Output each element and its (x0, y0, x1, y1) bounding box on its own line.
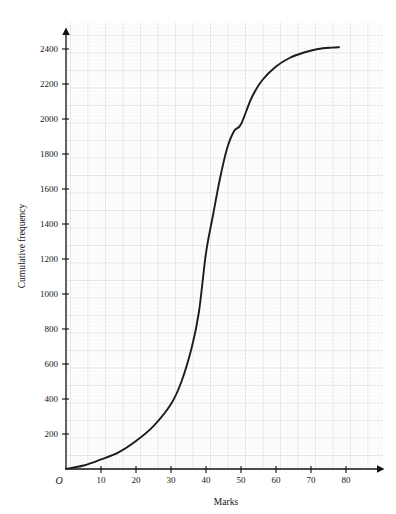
x-axis-title: Marks (214, 497, 239, 507)
y-tick-label: 800 (45, 324, 59, 334)
y-tick-label: 2400 (40, 44, 59, 54)
grid (66, 23, 383, 470)
cumulative-frequency-chart: 2004006008001000120014001600180020002200… (0, 0, 396, 514)
x-tick-label: 40 (202, 475, 212, 485)
y-axis-title: Cumulative frequency (17, 203, 27, 288)
x-tick-label: 30 (167, 475, 177, 485)
x-tick-label: 50 (237, 475, 247, 485)
y-tick-label: 1200 (40, 254, 59, 264)
y-tick-label: 2000 (40, 114, 59, 124)
y-tick-label: 200 (45, 429, 59, 439)
y-tick-label: 2200 (40, 79, 59, 89)
y-tick-label: 400 (45, 394, 59, 404)
y-tick-label: 1600 (40, 184, 59, 194)
x-tick-label: 70 (307, 475, 317, 485)
origin-label: O (55, 475, 62, 486)
grid-area (66, 23, 383, 470)
chart-page: graph for the grouped frequency (0, 0, 396, 514)
x-tick-label: 10 (97, 475, 107, 485)
chart-svg: 2004006008001000120014001600180020002200… (0, 0, 396, 514)
y-tick-label: 1400 (40, 219, 59, 229)
x-tick-label: 60 (272, 475, 282, 485)
y-tick-label: 1000 (40, 289, 59, 299)
x-tick-label: 80 (342, 475, 352, 485)
y-tick-label: 1800 (40, 149, 59, 159)
x-tick-label: 20 (132, 475, 142, 485)
y-tick-label: 600 (45, 359, 59, 369)
